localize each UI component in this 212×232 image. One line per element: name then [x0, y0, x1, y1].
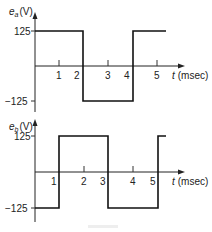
xtick-label-4: 4 [130, 176, 136, 187]
y-axis-label: ea(V) [9, 6, 33, 18]
xtick-label-4: 4 [124, 70, 130, 81]
xtick-label-2: 2 [74, 70, 80, 81]
ytick-label-125: 125 [14, 131, 31, 142]
y-axis-arrow-icon [33, 119, 38, 126]
xtick-label-5: 5 [154, 70, 160, 81]
xtick-label-5: 5 [150, 176, 156, 187]
xtick-label-3: 3 [100, 176, 106, 187]
ytick-label-125: 125 [14, 26, 31, 37]
x-axis-label: t(msec) [172, 176, 208, 187]
x-axis-arrow-icon [178, 64, 185, 69]
chart-eb: eb(V) 125 −125 1 2 3 4 5 t(msec) [5, 119, 208, 222]
figure: ea(V) 125 −125 1 2 3 4 5 t(msec) eb(V) 1… [0, 0, 212, 232]
y-axis-arrow-icon [33, 12, 38, 19]
x-axis-arrow-icon [178, 170, 185, 175]
ytick-label-neg125: −125 [5, 96, 28, 107]
xtick-label-1: 1 [51, 176, 57, 187]
xtick-label-1: 1 [56, 70, 62, 81]
ytick-label-neg125: −125 [5, 203, 28, 214]
figure-caption [88, 225, 118, 228]
x-axis-label: t(msec) [172, 70, 208, 81]
xtick-label-2: 2 [81, 176, 87, 187]
chart-ea: ea(V) 125 −125 1 2 3 4 5 t(msec) [5, 6, 208, 112]
xtick-label-3: 3 [105, 70, 111, 81]
